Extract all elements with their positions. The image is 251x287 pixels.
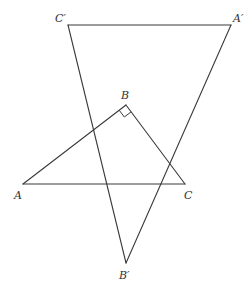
edge-a-b [23,105,126,184]
geometry-diagram: C′ A′ B A C B′ [0,0,251,287]
label-b: B [120,89,129,102]
label-a: A [13,189,22,202]
label-c-prime: C′ [55,12,66,25]
label-c: C [184,189,193,202]
edge-c-prime-b-prime [68,25,126,263]
label-a-prime: A′ [232,12,244,25]
edge-a-prime-b-prime [126,25,231,263]
triangle-a-prime-b-prime-c-prime [68,25,231,263]
label-b-prime: B′ [118,269,130,282]
edge-b-c [126,105,185,184]
right-angle-marker [119,110,131,117]
